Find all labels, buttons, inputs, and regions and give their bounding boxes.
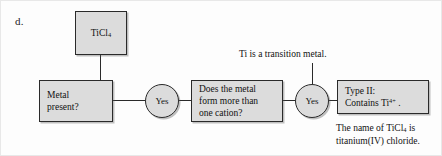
decision-yes-2: Yes [295, 84, 329, 118]
annotation-compound-name: The name of TiCl4 istitanium(IV) chlorid… [336, 122, 420, 147]
figure-canvas: d. TiCl4 Metal present? Does the metal f… [0, 0, 442, 156]
node-more-than-one-cation-label: Does the metal form more than one cation… [192, 83, 265, 119]
connector-annotation-to-yes-2 [312, 63, 313, 84]
annotation-transition-metal: Ti is a transition metal. [239, 48, 327, 61]
decision-yes-2-label: Yes [305, 96, 318, 106]
connector-compound-to-metal-present [100, 55, 101, 80]
connector-yes-1-to-more-cation [179, 100, 191, 101]
node-metal-present-label: Metal present? [40, 89, 86, 113]
node-compound-ticl4: TiCl4 [75, 11, 127, 55]
node-more-than-one-cation: Does the metal form more than one cation… [191, 80, 283, 122]
node-type-two-result-label: Type II:Contains Ti4+ . [338, 85, 408, 109]
node-metal-present: Metal present? [39, 80, 113, 122]
decision-yes-1: Yes [145, 84, 179, 118]
node-type-two-result: Type II:Contains Ti4+ . [337, 80, 429, 114]
connector-yes-2-to-type-two [329, 100, 337, 101]
decision-yes-1-label: Yes [155, 96, 168, 106]
figure-item-letter: d. [15, 15, 24, 27]
connector-metal-present-to-yes-1 [113, 100, 145, 101]
node-compound-label: TiCl4 [76, 27, 126, 40]
connector-more-cation-to-yes-2 [283, 100, 295, 101]
